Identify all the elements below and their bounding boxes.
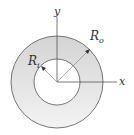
outer-radius-subscript: o (99, 36, 104, 45)
inner-radius-subscript: i (37, 61, 40, 70)
x-axis-label: x (119, 75, 126, 88)
inner-radius-symbol: R (27, 54, 37, 68)
y-axis-label: y (53, 5, 61, 18)
outer-radius-symbol: R (89, 29, 99, 43)
outer-radius-label: Ro (89, 29, 104, 45)
annulus-diagram: y x Ri Ro (0, 0, 134, 135)
